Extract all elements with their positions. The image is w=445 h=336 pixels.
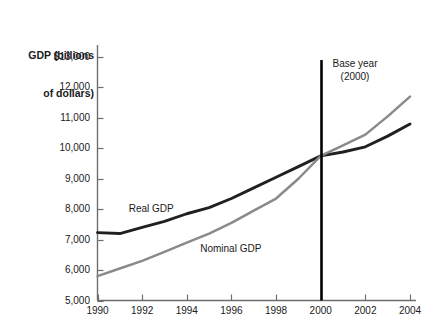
base-year-annotation: Base year (2000) xyxy=(318,57,392,83)
y-axis-ticks xyxy=(98,58,104,302)
y-axis-tick-label: $13,000 xyxy=(28,51,90,62)
y-axis-tick-label: 12,000 xyxy=(28,81,90,92)
y-axis-tick-label: 10,000 xyxy=(28,142,90,153)
y-axis-tick-label: 8,000 xyxy=(28,203,90,214)
y-axis-tick-label: 9,000 xyxy=(28,173,90,184)
series-label-nominal-gdp: Nominal GDP xyxy=(200,243,261,254)
y-axis-tick-label: 7,000 xyxy=(28,234,90,245)
x-axis-tick-label: 1994 xyxy=(165,305,209,316)
x-axis-tick-label: 1990 xyxy=(76,305,120,316)
x-axis-ticks xyxy=(99,295,411,301)
x-axis-tick-label: 1996 xyxy=(209,305,253,316)
x-axis-tick-label: 2000 xyxy=(299,305,343,316)
base-year-annotation-line1: Base year xyxy=(318,57,392,70)
axis-lines xyxy=(97,45,416,301)
y-axis-tick-label: 6,000 xyxy=(28,264,90,275)
y-axis-tick-label: 5,000 xyxy=(28,295,90,306)
x-axis-tick-label: 2004 xyxy=(388,305,432,316)
x-axis-tick-label: 1998 xyxy=(254,305,298,316)
x-axis-tick-label: 1992 xyxy=(120,305,164,316)
base-year-annotation-line2: (2000) xyxy=(318,70,392,83)
series-line-real-gdp xyxy=(98,124,411,234)
x-axis-tick-label: 2002 xyxy=(343,305,387,316)
y-axis-tick-label: 11,000 xyxy=(28,112,90,123)
gdp-chart-figure: GDP (billions of dollars) $13,00012,0001… xyxy=(0,0,445,336)
series-label-real-gdp: Real GDP xyxy=(129,203,174,214)
